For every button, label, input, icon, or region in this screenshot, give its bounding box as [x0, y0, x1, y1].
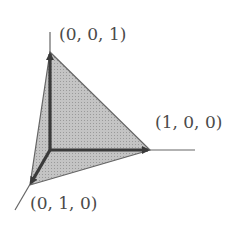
simplex-triangle — [30, 52, 150, 185]
label-z-vertex: (0, 0, 1) — [59, 24, 126, 44]
label-x-vertex: (1, 0, 0) — [155, 112, 222, 132]
label-y-vertex: (0, 1, 0) — [30, 193, 97, 213]
